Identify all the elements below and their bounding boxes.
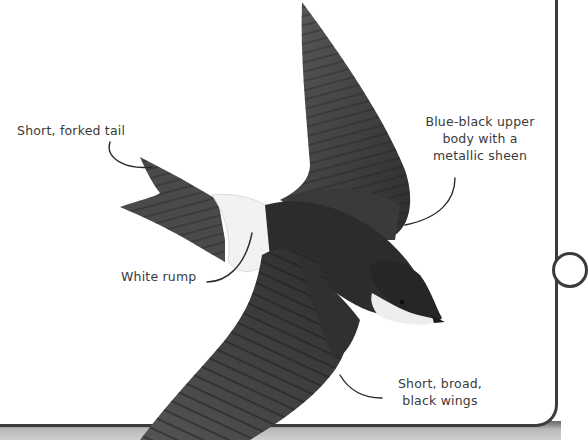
annotation-tail-text: Short, forked tail (17, 123, 125, 138)
annotation-wings-line-2: black wings (385, 392, 495, 409)
forked-tail (120, 157, 225, 262)
bird-head (370, 260, 445, 324)
annotation-upper-line-1: Blue-black upper (400, 113, 560, 130)
annotation-rump: White rump (121, 268, 197, 285)
annotation-upper-line-2: body with a (400, 130, 560, 147)
annotation-tail: Short, forked tail (17, 122, 125, 139)
leader-upper (405, 178, 455, 225)
annotation-rump-text: White rump (121, 269, 197, 284)
leader-wings (340, 375, 382, 398)
annotation-upper-body: Blue-black upper body with a metallic sh… (400, 113, 560, 164)
annotation-upper-line-3: metallic sheen (400, 147, 560, 164)
annotation-wings-line-1: Short, broad, (385, 375, 495, 392)
annotation-wings: Short, broad, black wings (385, 375, 495, 409)
